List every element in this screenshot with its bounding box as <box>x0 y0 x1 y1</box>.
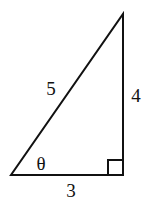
angle-theta-label: θ <box>36 153 45 174</box>
horizontal-leg-label: 3 <box>66 180 76 201</box>
vertical-leg-label: 4 <box>131 85 141 106</box>
hypotenuse-label: 5 <box>46 78 56 99</box>
triangle <box>11 14 123 175</box>
right-triangle-diagram: 5 4 3 θ <box>0 0 150 208</box>
right-angle-marker <box>108 160 123 175</box>
